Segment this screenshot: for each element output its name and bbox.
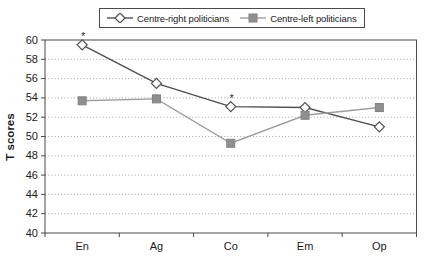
x-category-label: En bbox=[75, 240, 88, 252]
data-point-1-En bbox=[78, 97, 86, 105]
plot-svg: 4042444648505254565860EnAgCoEmOp** bbox=[0, 0, 430, 263]
legend-marker-shape bbox=[115, 13, 125, 23]
x-category-label: Co bbox=[224, 240, 238, 252]
y-tick-label: 58 bbox=[26, 53, 38, 65]
data-point-0-Op bbox=[374, 122, 384, 132]
legend-marker-diamond-icon bbox=[107, 13, 133, 23]
legend-label-centre-left: Centre-left politicians bbox=[270, 13, 356, 24]
y-tick-label: 44 bbox=[26, 188, 38, 200]
data-point-1-Op bbox=[375, 104, 383, 112]
y-tick-label: 42 bbox=[26, 207, 38, 219]
x-category-label: Op bbox=[372, 240, 387, 252]
data-point-1-Em bbox=[301, 111, 309, 119]
y-tick-label: 40 bbox=[26, 227, 38, 239]
y-tick-label: 46 bbox=[26, 169, 38, 181]
significance-marker: * bbox=[230, 93, 234, 104]
y-tick-label: 56 bbox=[26, 72, 38, 84]
chart-figure: 4042444648505254565860EnAgCoEmOp** Centr… bbox=[0, 0, 430, 263]
legend-item-centre-right: Centre-right politicians bbox=[107, 13, 229, 24]
legend-marker-square-icon bbox=[240, 13, 266, 23]
y-axis-title: T scores bbox=[4, 113, 16, 160]
y-tick-label: 54 bbox=[26, 91, 38, 103]
data-point-1-Co bbox=[227, 139, 235, 147]
data-point-0-Ag bbox=[151, 78, 161, 88]
significance-marker: * bbox=[81, 31, 85, 42]
legend-marker-shape bbox=[249, 14, 257, 22]
legend: Centre-right politicians Centre-left pol… bbox=[99, 8, 365, 28]
legend-item-centre-left: Centre-left politicians bbox=[240, 13, 356, 24]
y-tick-label: 48 bbox=[26, 149, 38, 161]
data-point-1-Ag bbox=[152, 95, 160, 103]
y-tick-label: 52 bbox=[26, 111, 38, 123]
series-line-0 bbox=[82, 45, 379, 127]
x-category-label: Ag bbox=[150, 240, 163, 252]
legend-label-centre-right: Centre-right politicians bbox=[137, 13, 229, 24]
x-category-label: Em bbox=[297, 240, 314, 252]
y-tick-label: 50 bbox=[26, 130, 38, 142]
y-tick-label: 60 bbox=[26, 34, 38, 46]
